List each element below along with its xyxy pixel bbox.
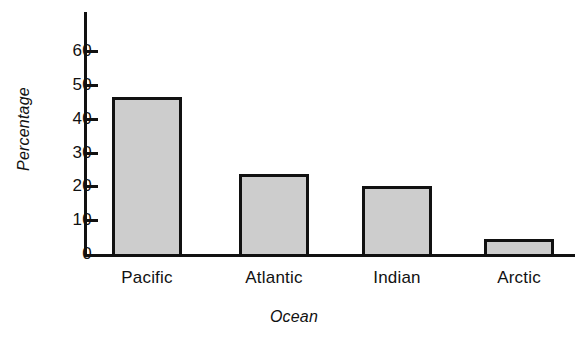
y-axis-tick-label-10: 10 <box>52 211 92 228</box>
bar-chart: Percentage 6050403020100 PacificAtlantic… <box>0 0 588 342</box>
y-axis-tick-label-50: 50 <box>52 76 92 93</box>
bar-arctic <box>484 239 554 257</box>
y-axis-tick-label-60: 60 <box>52 42 92 59</box>
y-axis-tick-label-20: 20 <box>52 177 92 194</box>
y-axis-tick-label-40: 40 <box>52 110 92 127</box>
bar-pacific <box>112 97 182 257</box>
x-axis-label-pacific: Pacific <box>77 268 217 288</box>
y-axis-title: Percentage <box>15 69 33 189</box>
x-axis-title: Ocean <box>0 308 588 326</box>
y-axis-tick-label-30: 30 <box>52 144 92 161</box>
bar-atlantic <box>239 174 309 257</box>
y-axis-tick-label-0: 0 <box>52 245 92 262</box>
bar-indian <box>362 186 432 257</box>
x-axis-label-arctic: Arctic <box>449 268 588 288</box>
x-axis-label-atlantic: Atlantic <box>204 268 344 288</box>
x-axis-label-indian: Indian <box>327 268 467 288</box>
